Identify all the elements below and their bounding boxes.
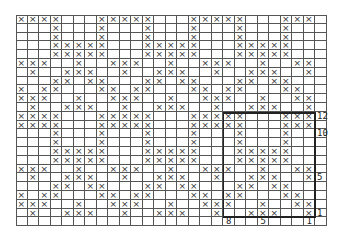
stitch-x-cell: × <box>62 103 74 112</box>
stitch-x-cell: × <box>51 191 63 200</box>
chart-cell <box>51 200 63 209</box>
chart-cell <box>223 33 235 42</box>
chart-cell <box>200 147 212 156</box>
chart-cell <box>120 138 132 147</box>
chart-cell <box>304 33 316 42</box>
chart-cell <box>131 41 143 50</box>
chart-cell <box>16 147 28 156</box>
chart-cell <box>85 112 97 121</box>
stitch-x-cell: × <box>177 182 189 191</box>
stitch-x-cell: × <box>223 15 235 24</box>
chart-cell <box>200 24 212 33</box>
stitch-x-cell: × <box>74 103 86 112</box>
chart-cell <box>154 112 166 121</box>
stitch-x-cell: × <box>189 50 201 59</box>
chart-cell <box>16 217 28 226</box>
stitch-x-cell: × <box>177 50 189 59</box>
stitch-x-cell: × <box>97 50 109 59</box>
chart-cell <box>108 68 120 77</box>
chart-cell <box>315 94 327 103</box>
column-number-label: 5 <box>261 217 266 226</box>
chart-cell <box>212 24 224 33</box>
chart-cell <box>16 129 28 138</box>
stitch-x-cell: × <box>16 121 28 130</box>
chart-cell <box>51 94 63 103</box>
chart-cell <box>39 24 51 33</box>
chart-cell <box>16 24 28 33</box>
chart-cell <box>177 121 189 130</box>
chart-cell <box>62 24 74 33</box>
chart-cell <box>85 217 97 226</box>
chart-cell <box>315 217 327 226</box>
chart-cell <box>200 129 212 138</box>
chart-cell <box>189 217 201 226</box>
chart-cell <box>28 129 40 138</box>
chart-cell <box>258 24 270 33</box>
stitch-x-cell: × <box>108 15 120 24</box>
stitch-x-cell: × <box>85 209 97 218</box>
chart-cell <box>189 94 201 103</box>
chart-cell <box>315 33 327 42</box>
chart-cell <box>166 129 178 138</box>
stitch-x-cell: × <box>28 121 40 130</box>
stitch-x-cell: × <box>177 103 189 112</box>
chart-cell <box>177 217 189 226</box>
chart-cell <box>177 112 189 121</box>
chart-cell <box>189 165 201 174</box>
stitch-x-cell: × <box>177 77 189 86</box>
stitch-x-cell: × <box>120 121 132 130</box>
stitch-x-cell: × <box>269 103 281 112</box>
chart-cell <box>246 85 258 94</box>
chart-cell <box>315 156 327 165</box>
stitch-x-cell: × <box>131 121 143 130</box>
stitch-x-cell: × <box>143 191 155 200</box>
chart-cell <box>143 200 155 209</box>
chart-cell <box>154 15 166 24</box>
chart-cell <box>97 217 109 226</box>
chart-cell <box>315 147 327 156</box>
stitch-x-cell: × <box>108 200 120 209</box>
stitch-x-cell: × <box>177 156 189 165</box>
chart-cell <box>120 33 132 42</box>
stitch-x-cell: × <box>74 68 86 77</box>
chart-cell <box>131 217 143 226</box>
stitch-x-cell: × <box>200 121 212 130</box>
chart-cell <box>189 200 201 209</box>
chart-cell <box>143 209 155 218</box>
chart-cell <box>131 209 143 218</box>
chart-cell <box>51 59 63 68</box>
chart-cell <box>166 112 178 121</box>
chart-cell <box>292 41 304 50</box>
chart-cell <box>131 138 143 147</box>
chart-cell <box>200 41 212 50</box>
chart-cell <box>269 217 281 226</box>
chart-cell <box>120 129 132 138</box>
chart-cell <box>62 112 74 121</box>
row-number-label: 5 <box>317 173 322 182</box>
chart-cell <box>166 182 178 191</box>
column-number-label: 8 <box>226 217 231 226</box>
chart-cell <box>258 77 270 86</box>
stitch-x-cell: × <box>212 15 224 24</box>
chart-cell <box>39 147 51 156</box>
chart-cell <box>315 68 327 77</box>
stitch-x-cell: × <box>131 94 143 103</box>
chart-cell <box>74 77 86 86</box>
chart-cell <box>39 33 51 42</box>
chart-cell <box>62 121 74 130</box>
chart-cell <box>62 191 74 200</box>
stitch-x-cell: × <box>28 209 40 218</box>
chart-cell <box>108 138 120 147</box>
stitch-x-cell: × <box>28 173 40 182</box>
chart-cell <box>269 85 281 94</box>
stitch-x-cell: × <box>16 200 28 209</box>
chart-cell <box>16 68 28 77</box>
chart-cell <box>16 33 28 42</box>
stitch-x-cell: × <box>51 50 63 59</box>
stitch-x-cell: × <box>166 68 178 77</box>
chart-cell <box>281 94 293 103</box>
chart-cell <box>166 15 178 24</box>
chart-cell <box>177 191 189 200</box>
stitch-x-cell: × <box>131 59 143 68</box>
chart-cell <box>154 217 166 226</box>
